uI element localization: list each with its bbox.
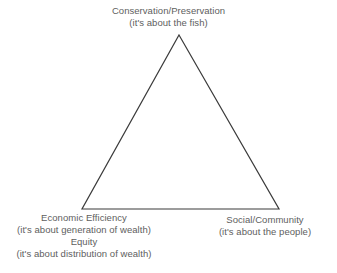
label-conservation-title: Conservation/Preservation <box>0 5 337 17</box>
label-equity-title: Equity <box>0 236 168 248</box>
label-economic-title: Economic Efficiency <box>0 212 168 224</box>
label-economic-efficiency: Economic Efficiency (it's about generati… <box>0 212 168 236</box>
label-social-community: Social/Community (it's about the people) <box>193 214 337 238</box>
label-equity-subtitle: (it's about distribution of wealth) <box>0 248 168 260</box>
label-social-title: Social/Community <box>193 214 337 226</box>
label-equity: Equity (it's about distribution of wealt… <box>0 236 168 260</box>
label-economic-subtitle: (it's about generation of wealth) <box>0 224 168 236</box>
label-social-subtitle: (it's about the people) <box>193 226 337 238</box>
triangle-outline <box>82 35 279 209</box>
diagram-canvas: Conservation/Preservation (it's about th… <box>0 0 337 273</box>
label-conservation-subtitle: (it's about the fish) <box>0 17 337 29</box>
label-conservation-preservation: Conservation/Preservation (it's about th… <box>0 5 337 29</box>
